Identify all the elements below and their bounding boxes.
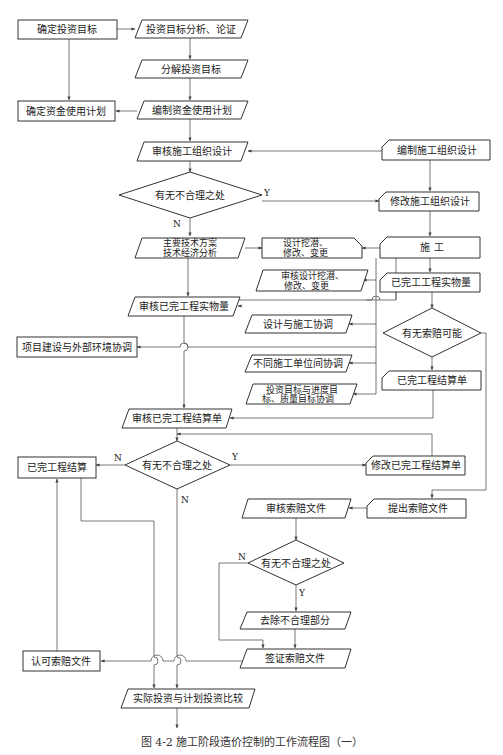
svg-text:审核已完工程结算单: 审核已完工程结算单	[132, 412, 222, 424]
svg-text:N: N	[114, 453, 122, 463]
svg-text:Y: Y	[263, 188, 271, 198]
svg-text:确定资金使用计划: 确定资金使用计划	[26, 105, 106, 117]
node-compare-investment: 实际投资与计划投资比较	[121, 689, 255, 708]
svg-text:确定投资目标: 确定投资目标	[37, 23, 97, 35]
svg-text:已完工工程实物量: 已完工工程实物量	[391, 276, 471, 288]
svg-text:主要技术方案: 主要技术方案	[163, 237, 217, 248]
decision-org-design: 有无不合理之处	[119, 172, 262, 218]
node-tech-plan: 主要技术方案 技术经济分析	[135, 237, 245, 258]
node-modify-settlement-sheet: 修改已完工程结算单	[366, 456, 465, 475]
svg-text:N: N	[173, 219, 181, 229]
svg-text:修改、变更: 修改、变更	[283, 247, 328, 258]
node-goal-analysis: 投资目标分析、论证	[135, 20, 248, 38]
svg-text:编制施工组织设计: 编制施工组织设计	[397, 144, 477, 156]
svg-text:提出索赔文件: 提出索赔文件	[388, 502, 448, 514]
svg-text:认可索赔文件: 认可索赔文件	[31, 655, 91, 667]
svg-text:修改、变更: 修改、变更	[284, 280, 329, 291]
node-units-coord: 不同施工单位间协调	[245, 355, 352, 372]
node-design-construction-coord: 设计与施工协调	[245, 315, 352, 333]
node-review-org-design: 审核施工组织设计	[137, 142, 248, 161]
decision-claim-review: 有无不合理之处	[248, 540, 344, 585]
svg-text:修改施工组织设计: 修改施工组织设计	[390, 195, 470, 207]
svg-text:有无索赔可能: 有无索赔可能	[402, 327, 462, 339]
flowchart: 确定投资目标 确定资金使用计划 项目建设与外部环境协调 已完工程结算 认可索赔文…	[0, 0, 503, 755]
svg-text:已完工程结算: 已完工程结算	[27, 461, 87, 473]
node-design-potential: 设计挖潜、 修改、变更	[262, 237, 362, 258]
svg-text:Y: Y	[231, 452, 239, 462]
node-review-completed-quantity: 审核已完工程实物量	[128, 297, 240, 316]
node-confirm-goal: 确定投资目标	[18, 20, 117, 39]
svg-text:审核已完工程实物量: 审核已完工程实物量	[139, 300, 229, 312]
node-completed-settlement: 已完工程结算	[18, 457, 96, 478]
node-decompose-goal: 分解投资目标	[135, 60, 248, 78]
node-compile-org-design: 编制施工组织设计	[382, 140, 490, 160]
node-submit-claim: 提出索赔文件	[367, 499, 466, 518]
svg-text:去除不合理部分: 去除不合理部分	[260, 614, 330, 626]
svg-text:设计与施工协调: 设计与施工协调	[263, 318, 333, 330]
svg-text:修改已完工程结算单: 修改已完工程结算单	[371, 459, 461, 471]
node-visa-claim: 签证索赔文件	[240, 649, 351, 668]
svg-text:投资目标分析、论证: 投资目标分析、论证	[146, 23, 236, 35]
svg-text:有无不合理之处: 有无不合理之处	[155, 189, 225, 201]
svg-text:设计挖潜、: 设计挖潜、	[283, 237, 328, 248]
node-confirm-fund-plan: 确定资金使用计划	[18, 101, 115, 121]
node-external-coord: 项目建设与外部环境协调	[17, 337, 137, 357]
svg-text:审核索赔文件: 审核索赔文件	[266, 502, 326, 514]
node-review-claim: 审核索赔文件	[242, 499, 351, 518]
svg-text:实际投资与计划投资比较: 实际投资与计划投资比较	[133, 692, 243, 704]
node-review-settlement-sheet: 审核已完工程结算单	[122, 409, 232, 428]
node-approve-claim: 认可索赔文件	[23, 651, 100, 671]
svg-text:项目建设与外部环境协调: 项目建设与外部环境协调	[22, 341, 132, 353]
svg-text:施 工: 施 工	[420, 241, 443, 253]
decision-settlement: 有无不合理之处	[125, 441, 230, 489]
svg-text:有无不合理之处: 有无不合理之处	[142, 459, 212, 471]
node-remove-unreasonable: 去除不合理部分	[240, 612, 351, 629]
svg-text:有无不合理之处: 有无不合理之处	[261, 557, 331, 569]
svg-text:编制资金使用计划: 编制资金使用计划	[152, 104, 232, 116]
svg-text:分解投资目标: 分解投资目标	[161, 63, 221, 75]
node-completed-quantity: 已完工工程实物量	[380, 273, 480, 292]
svg-text:N: N	[238, 552, 246, 562]
decision-claim-possible: 有无索赔可能	[383, 308, 481, 357]
node-goal-coord: 投资目标与进度目 标、质量目标协调	[246, 384, 357, 404]
svg-text:Y: Y	[298, 588, 306, 598]
svg-text:审核施工组织设计: 审核施工组织设计	[152, 145, 232, 157]
node-modify-org-design: 修改施工组织设计	[379, 192, 479, 211]
svg-text:审核设计挖潜、: 审核设计挖潜、	[281, 270, 344, 281]
node-construction: 施 工	[380, 237, 480, 258]
svg-text:N: N	[181, 495, 189, 505]
svg-text:不同施工单位间协调: 不同施工单位间协调	[253, 357, 343, 369]
svg-text:标、质量目标协调: 标、质量目标协调	[262, 393, 334, 404]
figure-caption: 图 4-2 施工阶段造价控制的工作流程图（一）	[141, 735, 364, 749]
node-compile-fund-plan: 编制资金使用计划	[137, 101, 248, 119]
node-review-design-potential: 审核设计挖潜、 修改、变更	[256, 270, 368, 291]
node-settlement-sheet: 已完工程结算单	[382, 371, 481, 390]
svg-text:签证索赔文件: 签证索赔文件	[265, 652, 325, 664]
svg-text:技术经济分析: 技术经济分析	[163, 247, 217, 258]
svg-text:已完工程结算单: 已完工程结算单	[397, 374, 467, 386]
